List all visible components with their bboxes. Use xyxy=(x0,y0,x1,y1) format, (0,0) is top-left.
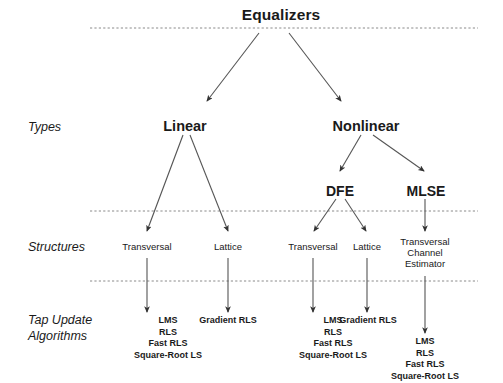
edge-linear-to-transversal xyxy=(147,135,183,231)
edge-linear-to-lattice xyxy=(190,135,228,231)
algo-line-lms: LMS xyxy=(391,336,459,348)
node-mlse-label: MLSE xyxy=(407,183,446,199)
algo-line-gradient-rls: Gradient RLS xyxy=(339,315,397,327)
node-dfe-transversal-label: Transversal xyxy=(288,241,337,252)
node-dfe-lattice-algorithms: Gradient RLS xyxy=(339,315,397,327)
node-mlse-algorithms: LMS RLS Fast RLS Square-Root LS xyxy=(391,336,459,383)
row-label-types-text: Types xyxy=(28,120,61,134)
algo-line-fast-rls: Fast RLS xyxy=(299,338,367,350)
edge-equalizers-to-nonlinear xyxy=(289,33,341,101)
algo-line-fast-rls: Fast RLS xyxy=(391,359,459,371)
node-linear: Linear xyxy=(163,118,207,135)
algo-line-square-root-ls: Square-Root LS xyxy=(134,350,202,362)
edge-dfe-to-transversal xyxy=(314,199,336,231)
row-label-structures-text: Structures xyxy=(28,240,85,254)
node-mlse-structure-line-2: Channel xyxy=(400,247,449,258)
node-mlse: MLSE xyxy=(407,183,446,200)
algo-line-rls: RLS xyxy=(134,327,202,339)
node-mlse-structure-line-3: Estimator xyxy=(400,258,449,269)
row-label-tap-update-algorithms: Tap Update Algorithms xyxy=(28,313,92,344)
node-dfe-lattice-label: Lattice xyxy=(353,241,381,252)
edge-nonlinear-to-mlse xyxy=(373,135,424,171)
algo-line-square-root-ls: Square-Root LS xyxy=(299,350,367,362)
node-mlse-structure: Transversal Channel Estimator xyxy=(400,236,449,270)
algo-line-square-root-ls: Square-Root LS xyxy=(391,371,459,383)
node-linear-lattice-label: Lattice xyxy=(214,241,242,252)
node-dfe-lattice: Lattice xyxy=(353,241,381,252)
algo-line-rls: RLS xyxy=(391,348,459,360)
edge-equalizers-to-linear xyxy=(207,33,259,101)
node-equalizers: Equalizers xyxy=(242,6,321,24)
row-label-structures: Structures xyxy=(28,240,85,256)
node-linear-lattice: Lattice xyxy=(214,241,242,252)
algo-line-rls: RLS xyxy=(299,327,367,339)
node-linear-transversal-label: Transversal xyxy=(122,241,171,252)
algo-line-fast-rls: Fast RLS xyxy=(134,338,202,350)
row-label-types: Types xyxy=(28,120,61,136)
node-equalizers-label: Equalizers xyxy=(242,6,321,23)
node-dfe-label: DFE xyxy=(326,183,354,199)
edge-nonlinear-to-dfe xyxy=(340,135,361,171)
algo-line-lms: LMS xyxy=(134,315,202,327)
node-dfe-transversal: Transversal xyxy=(288,241,337,252)
node-linear-transversal: Transversal xyxy=(122,241,171,252)
algo-line-gradient-rls: Gradient RLS xyxy=(199,315,257,327)
node-mlse-structure-line-1: Transversal xyxy=(400,236,449,247)
row-label-tap-update-line2: Algorithms xyxy=(28,329,92,345)
node-linear-label: Linear xyxy=(163,118,207,134)
node-nonlinear: Nonlinear xyxy=(333,118,400,135)
row-label-tap-update-line1: Tap Update xyxy=(28,313,92,329)
node-linear-lattice-algorithms: Gradient RLS xyxy=(199,315,257,327)
node-dfe: DFE xyxy=(326,183,354,200)
edge-dfe-to-lattice xyxy=(345,199,366,231)
node-linear-transversal-algorithms: LMS RLS Fast RLS Square-Root LS xyxy=(134,315,202,362)
node-nonlinear-label: Nonlinear xyxy=(333,118,400,134)
